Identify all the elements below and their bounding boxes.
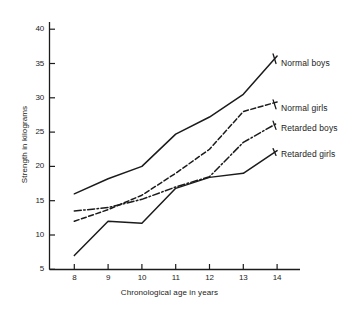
y-axis-tick-label: 10 [24,230,44,239]
series-label-normal-boys: Normal boys [281,58,330,68]
x-axis-ticks [74,264,277,270]
x-axis-tick-label: 13 [233,273,253,282]
series-line-normal-boys [74,56,277,194]
series-line-normal-girls [74,102,277,221]
x-axis-tick-label: 10 [132,273,152,282]
y-axis-title: Strength in kilograms [20,75,29,215]
x-axis-tick-label: 12 [200,273,220,282]
series-line-retarded-girls [74,151,277,256]
series-label-leaders [273,54,276,155]
x-axis-title: Chronological age in years [0,288,339,297]
series-label-leader [273,100,276,109]
series-label-leader [273,121,276,129]
series-label-normal-girls: Normal girls [281,103,328,113]
x-axis-tick-label: 9 [98,273,118,282]
y-axis-tick-label: 5 [24,264,44,273]
series-label-retarded-girls: Retarded girls [281,149,335,159]
series-label-retarded-boys: Retarded boys [281,123,338,133]
series-line-retarded-boys [74,123,277,211]
data-series-lines [74,56,277,256]
x-axis-tick-label: 14 [267,273,287,282]
y-axis-ticks [50,29,56,269]
strength-by-age-line-chart: 510152025303540 891011121314 Normal boys… [0,0,339,314]
axes [50,22,301,270]
y-axis-tick-label: 35 [24,59,44,68]
y-axis-tick-label: 40 [24,24,44,33]
x-axis-tick-label: 11 [166,273,186,282]
x-axis-tick-label: 8 [64,273,84,282]
